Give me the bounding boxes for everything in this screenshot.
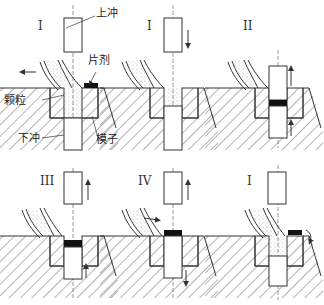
panel-2 <box>100 5 218 150</box>
label-lower-punch: 下冲 <box>18 133 40 144</box>
panel-6-stage-label: I <box>247 175 252 187</box>
panel-2-stage-label: I <box>147 20 152 32</box>
label-granules: 颗粒 <box>4 95 26 106</box>
diagram-drawing <box>0 0 324 305</box>
panel-5-stage-label: IV <box>138 175 151 187</box>
label-tablet: 片剂 <box>88 55 110 66</box>
panel-3 <box>205 50 323 150</box>
panel-3-stage-label: II <box>243 20 252 32</box>
panel-5 <box>100 168 218 300</box>
tablet-press-diagram: I I II III IV I 上冲 片剂 颗粒 下冲 模子 <box>0 0 324 305</box>
panel-1-stage-label: I <box>38 20 43 32</box>
panel-6 <box>205 165 323 300</box>
panel-4-stage-label: III <box>40 175 54 187</box>
label-die: 模子 <box>96 134 118 145</box>
label-upper-punch: 上冲 <box>96 8 118 19</box>
